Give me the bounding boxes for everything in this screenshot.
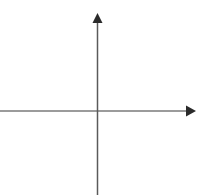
- plot-background: [0, 0, 203, 195]
- figure-canvas: [0, 0, 203, 195]
- coordinate-axes-figure: [0, 0, 203, 195]
